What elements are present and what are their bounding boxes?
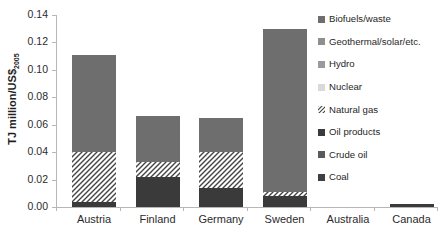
- bar-segment[interactable]: [263, 192, 307, 196]
- legend-item[interactable]: Hydro: [318, 53, 442, 76]
- legend-swatch-icon: [318, 16, 325, 23]
- legend-item[interactable]: Biofuels/waste: [318, 8, 442, 31]
- bar-stack[interactable]: [136, 15, 180, 207]
- legend-item-label: Coal: [329, 172, 349, 182]
- x-tick-mark: [183, 207, 184, 211]
- y-tick-label: 0.10: [28, 64, 48, 74]
- legend-item[interactable]: Coal: [318, 166, 442, 189]
- legend-swatch-icon: [318, 151, 325, 158]
- legend-item-label: Hydro: [329, 59, 355, 69]
- chart-legend: Biofuels/wasteGeothermal/solar/etc.Hydro…: [318, 8, 442, 189]
- legend-item[interactable]: Oil products: [318, 121, 442, 144]
- y-tick-label: 0.14: [28, 9, 48, 19]
- bar-stack[interactable]: [72, 15, 116, 207]
- y-tick-label: 0.08: [28, 91, 48, 101]
- legend-item-label: Natural gas: [329, 105, 378, 115]
- bar-segment[interactable]: [199, 152, 243, 188]
- legend-item[interactable]: Natural gas: [318, 98, 442, 121]
- bar-segment[interactable]: [136, 162, 180, 177]
- y-axis-title-main: TJ million/US$: [6, 69, 18, 145]
- y-tick-label: 0.06: [28, 119, 48, 129]
- bar-segment[interactable]: [263, 29, 307, 192]
- bar-segment[interactable]: [390, 204, 434, 207]
- legend-item-label: Oil products: [329, 127, 380, 137]
- bar-segment[interactable]: [199, 118, 243, 152]
- bar-segment[interactable]: [72, 202, 116, 207]
- x-tick-mark: [437, 207, 438, 211]
- legend-item[interactable]: Geothermal/solar/etc.: [318, 31, 442, 54]
- legend-item-label: Crude oil: [329, 150, 367, 160]
- y-tick-label: 0.12: [28, 36, 48, 46]
- stacked-bar-chart: TJ million/US$2005 0.000.020.040.060.080…: [0, 0, 442, 236]
- bar-segment[interactable]: [136, 177, 180, 207]
- legend-swatch-icon: [318, 129, 325, 136]
- legend-item[interactable]: Crude oil: [318, 144, 442, 167]
- legend-swatch-icon: [318, 61, 325, 68]
- x-tick-mark: [374, 207, 375, 211]
- bar-segment[interactable]: [263, 196, 307, 207]
- x-tick-mark: [247, 207, 248, 211]
- x-tick-mark: [120, 207, 121, 211]
- bar-segment[interactable]: [199, 188, 243, 207]
- legend-swatch-icon: [318, 38, 325, 45]
- bar-segment[interactable]: [72, 55, 116, 152]
- x-axis-category-label: Canada: [372, 213, 442, 225]
- legend-item-label: Biofuels/waste: [329, 14, 391, 24]
- y-tick-label: 0.00: [28, 201, 48, 211]
- y-axis-title-subscript: 2005: [13, 53, 20, 69]
- x-tick-mark: [310, 207, 311, 211]
- legend-item[interactable]: Nuclear: [318, 76, 442, 99]
- y-tick-label: 0.02: [28, 174, 48, 184]
- legend-item-label: Nuclear: [329, 82, 362, 92]
- legend-swatch-icon: [318, 174, 325, 181]
- bar-segment[interactable]: [72, 152, 116, 201]
- legend-swatch-icon: [318, 106, 325, 113]
- bars-layer: [56, 15, 300, 207]
- y-tick-label: 0.04: [28, 146, 48, 156]
- y-axis-title: TJ million/US$2005: [6, 14, 20, 184]
- bar-stack[interactable]: [199, 15, 243, 207]
- legend-item-label: Geothermal/solar/etc.: [329, 37, 421, 47]
- bar-stack[interactable]: [263, 15, 307, 207]
- x-tick-mark: [56, 207, 57, 211]
- bar-segment[interactable]: [136, 116, 180, 161]
- legend-swatch-icon: [318, 84, 325, 91]
